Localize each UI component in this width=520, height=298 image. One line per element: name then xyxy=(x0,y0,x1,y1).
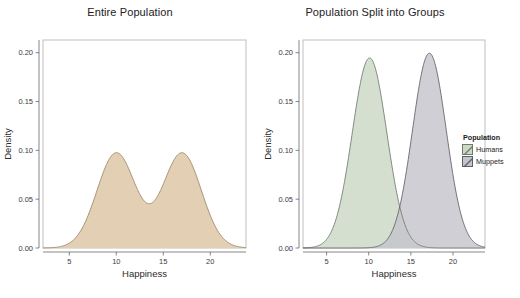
y-tick-label: 0.20 xyxy=(278,48,293,57)
legend-item-muppets[interactable]: Muppets xyxy=(462,156,520,167)
y-tick-label: 0.05 xyxy=(18,195,33,204)
legend-title: Population xyxy=(463,133,520,142)
legend-item-humans[interactable]: Humans xyxy=(462,144,520,155)
y-tick-label: 0.00 xyxy=(278,244,293,253)
chart-panel-entire-population: Entire Population 51015200.000.050.100.1… xyxy=(0,0,260,298)
density-plot-entire-population: 51015200.000.050.100.150.20HappinessDens… xyxy=(0,0,260,298)
legend-label-muppets: Muppets xyxy=(476,156,504,167)
y-tick-label: 0.10 xyxy=(18,146,33,155)
y-axis-title: Density xyxy=(2,128,13,160)
chart-panel-population-split: Population Split into Groups 51015200.00… xyxy=(260,0,520,298)
x-tick-label: 20 xyxy=(449,257,457,266)
y-tick-label: 0.15 xyxy=(18,97,33,106)
y-tick-label: 0.10 xyxy=(278,146,293,155)
x-tick-label: 5 xyxy=(67,257,71,266)
y-axis-title: Density xyxy=(262,128,273,160)
y-tick-label: 0.05 xyxy=(278,195,293,204)
y-tick-label: 0.15 xyxy=(278,97,293,106)
x-axis-title: Happiness xyxy=(122,268,167,279)
x-tick-label: 10 xyxy=(112,257,120,266)
x-tick-label: 5 xyxy=(325,257,329,266)
x-tick-label: 20 xyxy=(206,257,214,266)
legend-swatch-humans xyxy=(462,144,473,155)
figure-root: Entire Population 51015200.000.050.100.1… xyxy=(0,0,520,298)
legend-swatch-muppets xyxy=(462,156,473,167)
y-tick-label: 0.20 xyxy=(18,48,33,57)
y-tick-label: 0.00 xyxy=(18,244,33,253)
x-tick-label: 15 xyxy=(407,257,415,266)
legend-label-humans: Humans xyxy=(476,144,503,155)
x-tick-label: 15 xyxy=(159,257,167,266)
x-tick-label: 10 xyxy=(365,257,373,266)
x-axis-title: Happiness xyxy=(372,268,417,279)
legend: Population Humans Muppets xyxy=(462,133,520,168)
